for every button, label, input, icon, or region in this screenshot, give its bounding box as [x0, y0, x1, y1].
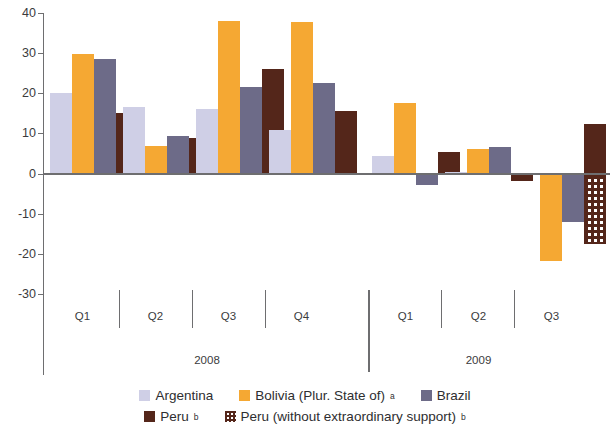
x-axis-label-2008-q2: Q2: [119, 310, 192, 322]
bar-argentina-2008-q1: [50, 93, 72, 174]
bar-bolivia-2008-q1: [72, 54, 94, 174]
legend-item-argentina[interactable]: Argentina: [139, 388, 213, 403]
bar-argentina-2008-q3: [196, 109, 218, 174]
y-axis-label-minus-30: -30: [0, 288, 36, 300]
legend-item-bolivia[interactable]: Bolivia (Plur. State of)a: [239, 388, 395, 403]
legend-item-brazil[interactable]: Brazil: [421, 388, 471, 403]
legend-swatch-brazil-icon: [421, 390, 432, 401]
quarter-separator-5: [514, 290, 515, 328]
bar-brazil-2009-q2: [489, 147, 511, 174]
x-axis-year-label-2009: 2009: [369, 354, 588, 366]
bar-brazil-2008-q1: [94, 59, 116, 174]
x-axis-year-label-2008: 2008: [46, 354, 368, 366]
x-axis-label-2008-q1: Q1: [46, 310, 119, 322]
bar-chart: 40 30 20 10 0 -10 -20 -30: [0, 0, 610, 441]
x-axis-label-2009-q1: Q1: [369, 310, 442, 322]
bar-bolivia-2009-q2: [467, 149, 489, 174]
legend-footnote-peru: b: [194, 413, 199, 421]
bar-peru-without-extraordinary-support-2009-q3: [584, 175, 606, 244]
bar-brazil-2008-q3: [240, 87, 262, 174]
quarter-separator-4: [441, 290, 442, 328]
bar-peru-2009-q3: [584, 124, 606, 174]
x-axis-label-2008-q4: Q4: [265, 310, 338, 322]
legend-item-peru[interactable]: Perub: [144, 409, 198, 424]
bar-argentina-2008-q4: [269, 130, 291, 174]
bar-peru-2008-q4: [335, 111, 357, 174]
bar-brazil-2009-q3: [562, 175, 584, 222]
y-tick-minus-20: [38, 254, 44, 255]
legend-label-bolivia: Bolivia (Plur. State of): [255, 388, 385, 403]
bar-brazil-2009-q1: [416, 175, 438, 185]
legend-swatch-argentina-icon: [139, 390, 150, 401]
quarter-separator-3: [265, 290, 266, 328]
y-axis-label-minus-10: -10: [0, 208, 36, 220]
y-axis-label-30: 30: [0, 47, 36, 59]
y-axis-label-0: 0: [0, 168, 36, 180]
y-tick-minus-30: [38, 294, 44, 295]
x-axis-label-2008-q3: Q3: [192, 310, 265, 322]
bar-peru-2009-q2: [511, 175, 533, 181]
y-axis-label-40: 40: [0, 7, 36, 19]
legend-label-argentina: Argentina: [155, 388, 213, 403]
legend-row-1: Argentina Bolivia (Plur. State of)a Braz…: [0, 388, 610, 403]
y-tick-minus-10: [38, 214, 44, 215]
bar-bolivia-2009-q1: [394, 103, 416, 174]
y-axis-label-minus-20: -20: [0, 248, 36, 260]
bar-bolivia-2008-q2: [145, 146, 167, 174]
legend-label-peru: Peru: [160, 409, 189, 424]
y-tick-20: [38, 93, 44, 94]
y-tick-10: [38, 133, 44, 134]
legend-label-brazil: Brazil: [437, 388, 471, 403]
y-axis-label-10: 10: [0, 127, 36, 139]
bar-bolivia-2008-q3: [218, 21, 240, 174]
legend-footnote-peru-without-support: b: [461, 413, 466, 421]
legend-swatch-peru-without-support-icon: [225, 411, 236, 422]
x-axis-label-2009-q2: Q2: [442, 310, 515, 322]
legend-row-2: Perub Peru (without extraordinary suppor…: [0, 409, 610, 424]
legend-item-peru-without-extraordinary-support[interactable]: Peru (without extraordinary support)b: [225, 409, 466, 424]
x-axis-label-2009-q3: Q3: [515, 310, 588, 322]
bar-bolivia-2008-q4: [291, 22, 313, 174]
bar-brazil-2008-q2: [167, 136, 189, 174]
y-axis-line: [43, 13, 44, 375]
legend-label-peru-without-extraordinary-support: Peru (without extraordinary support): [241, 409, 456, 424]
legend-swatch-peru-icon: [144, 411, 155, 422]
quarter-separator-1: [119, 290, 120, 328]
bar-peru-2009-q1: [438, 152, 460, 174]
y-tick-40: [38, 13, 44, 14]
chart-legend: Argentina Bolivia (Plur. State of)a Braz…: [0, 388, 610, 430]
legend-footnote-bolivia: a: [390, 392, 395, 400]
bar-brazil-2008-q4: [313, 83, 335, 174]
bar-bolivia-2009-q3: [540, 175, 562, 261]
bar-argentina-2009-q1: [372, 156, 394, 174]
quarter-separator-2: [192, 290, 193, 328]
cropped-title-fragment: [60, 0, 480, 4]
y-tick-30: [38, 53, 44, 54]
zero-baseline: [43, 173, 610, 175]
y-axis-label-20: 20: [0, 87, 36, 99]
bar-argentina-2008-q2: [123, 107, 145, 174]
legend-swatch-bolivia-icon: [239, 390, 250, 401]
